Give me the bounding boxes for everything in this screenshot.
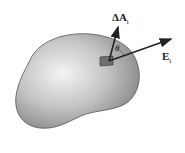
angle-label: θ bbox=[115, 43, 119, 53]
field-vector-label: Ei bbox=[162, 51, 171, 65]
area-vector-symbol: ΔA bbox=[112, 11, 127, 23]
flux-diagram bbox=[0, 0, 185, 153]
closed-surface bbox=[16, 34, 140, 129]
area-vector-subscript: i bbox=[127, 18, 129, 26]
field-vector-subscript: i bbox=[169, 57, 171, 65]
area-vector-label: ΔAi bbox=[112, 12, 129, 26]
